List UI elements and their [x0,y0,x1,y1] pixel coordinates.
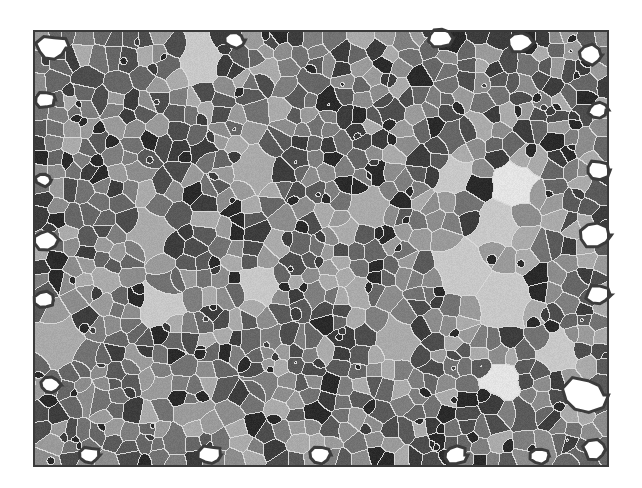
grain-segmentation-canvas [0,0,642,488]
